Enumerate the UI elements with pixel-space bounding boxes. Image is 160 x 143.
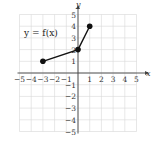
axes (18, 5, 150, 134)
x-tick-label: 3 (111, 75, 116, 84)
y-tick-label: −5 (65, 128, 76, 137)
y-tick-label: 4 (71, 22, 76, 31)
x-tick-label: 5 (134, 75, 139, 84)
x-tick-label: 4 (122, 75, 127, 84)
y-tick-label: 1 (71, 57, 76, 66)
y-tick-label: −3 (65, 104, 76, 113)
endpoint-dot (75, 47, 81, 53)
x-tick-label: −2 (49, 75, 60, 84)
x-tick-label: 1 (87, 75, 92, 84)
endpoint-dot (87, 23, 93, 29)
y-tick-label: −2 (65, 92, 76, 101)
x-axis-label: x (146, 69, 151, 78)
y-tick-label: 3 (71, 34, 76, 43)
function-graph: −5−4−3−2−11234554321−1−2−3−4−5 y = f(x) … (0, 0, 160, 143)
y-tick-label: −4 (65, 116, 76, 125)
endpoint-dot (40, 59, 46, 65)
x-tick-label: 2 (99, 75, 104, 84)
y-tick-label: 5 (71, 11, 76, 20)
x-tick-label: −4 (26, 75, 37, 84)
y-tick-label: −1 (65, 81, 76, 90)
y-axis-label: y (75, 0, 81, 9)
x-tick-label: −3 (37, 75, 48, 84)
function-label: y = f(x) (23, 28, 58, 38)
x-tick-label: −5 (14, 75, 25, 84)
